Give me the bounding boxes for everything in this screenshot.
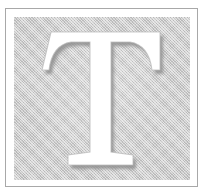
letter-body [42,32,160,165]
figure-caption: Decorative drop cap initial [0,0,1,1]
letter-t-glyph-svg [14,17,190,180]
letter-contour [42,32,160,165]
letter-shadow [45,36,163,169]
dropcap-letter-t [14,17,190,180]
decorative-initial-figure: Decorative drop cap initial [0,0,205,194]
